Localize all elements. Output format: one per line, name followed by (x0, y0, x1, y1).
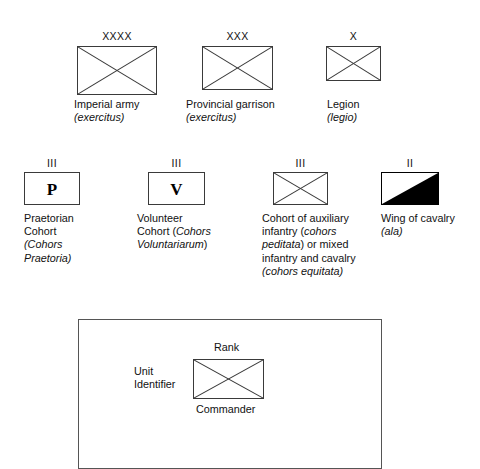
numeral-cavalry-wing: II (381, 157, 439, 169)
legend-unit-identifier-label: Unit Identifier (134, 365, 194, 391)
caption-line-3-tail: ) or mixed (300, 238, 348, 250)
caption-line-1: Praetorian (24, 212, 74, 224)
unit-box-provincial-garrison (202, 46, 273, 90)
caption-volunteer-cohort: Volunteer Cohort (Cohors Voluntariarum) (137, 212, 257, 252)
caption-line-5: (cohors equitata) (262, 265, 343, 277)
caption-line-2: infantry ( (262, 225, 304, 237)
saltire-icon (203, 47, 272, 89)
caption-line-2: (exercitus) (74, 111, 124, 123)
caption-line-1: Legion (327, 98, 359, 110)
numeral-imperial-army: XXXX (77, 30, 157, 42)
caption-line-4: infantry and cavalry (262, 252, 356, 264)
caption-line-1: Cohort of auxiliary (262, 212, 349, 224)
caption-line-2: Cohort ( (137, 225, 176, 237)
unit-box-praetorian-cohort: P (24, 172, 80, 205)
unit-box-volunteer-cohort: V (148, 172, 205, 205)
saltire-icon (194, 360, 263, 398)
unit-box-imperial-army (77, 46, 157, 95)
caption-line-1: Volunteer (137, 212, 183, 224)
numeral-provincial-garrison: XXX (202, 30, 273, 42)
legend-commander-label: Commander (196, 403, 306, 416)
caption-line-2: (exercitus) (186, 111, 236, 123)
caption-imperial-army: Imperial army (exercitus) (74, 98, 194, 124)
numeral-volunteer-cohort: III (148, 157, 205, 169)
numeral-praetorian-cohort: III (24, 157, 80, 169)
caption-line-2: Cohort (24, 225, 56, 237)
unit-letter-v: V (149, 180, 204, 197)
unit-letter-p: P (25, 180, 79, 197)
saltire-icon (78, 47, 156, 94)
legend-rank-label: Rank (214, 341, 304, 354)
caption-provincial-garrison: Provincial garrison (exercitus) (186, 98, 316, 124)
unit-box-legion (326, 46, 381, 81)
caption-line-3-tail: ) (204, 238, 208, 250)
unit-box-cavalry-wing (381, 172, 439, 205)
caption-line-3: (Cohors (24, 238, 62, 250)
caption-line-2: (legio) (327, 111, 357, 123)
caption-line-2-italic: Cohors (176, 225, 211, 237)
caption-line-2-italic: cohors (304, 225, 336, 237)
saltire-icon (327, 47, 380, 80)
caption-line-3-italic: Voluntariarum (137, 238, 204, 250)
caption-line-1: Provincial garrison (186, 98, 275, 110)
caption-line-1: Wing of cavalry (381, 212, 455, 224)
caption-line-2: (ala) (381, 225, 403, 237)
saltire-icon (274, 173, 327, 204)
caption-line-3-italic: peditata (262, 238, 300, 250)
caption-auxiliary-cohort: Cohort of auxiliary infantry (cohors ped… (262, 212, 390, 278)
caption-praetorian-cohort: Praetorian Cohort (Cohors Praetoria) (24, 212, 134, 265)
caption-line-4: Praetoria) (24, 252, 71, 264)
caption-line-1: Imperial army (74, 98, 139, 110)
numeral-auxiliary-cohort: III (273, 157, 328, 169)
caption-cavalry-wing: Wing of cavalry (ala) (381, 212, 480, 238)
unit-box-auxiliary-cohort (273, 172, 328, 205)
half-filled-diagonal-icon (382, 173, 438, 204)
caption-legion: Legion (legio) (327, 98, 427, 124)
legend-unit-box (193, 359, 264, 399)
numeral-legion: X (326, 30, 381, 42)
